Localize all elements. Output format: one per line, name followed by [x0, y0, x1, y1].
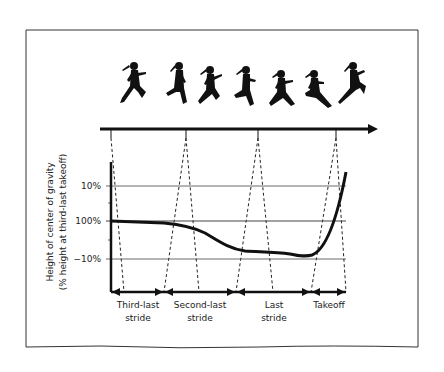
y-tick-label: 10%	[81, 181, 101, 191]
phase-label: stride	[187, 313, 213, 323]
phase-label: Third-last	[116, 300, 160, 310]
dashed-projection-lines	[111, 138, 346, 292]
y-axis-label: Height of center of gravity	[45, 162, 55, 282]
y-tick-label: 100%	[75, 216, 101, 226]
long-jump-approach-diagram: 10% 100% −10% Height of center of gravit…	[0, 0, 444, 372]
phase-label: stride	[261, 313, 287, 323]
phase-label: Takeoff	[312, 300, 345, 310]
runner-icon	[166, 62, 187, 104]
phase-label: Last	[265, 300, 284, 310]
y-axis-label-sub: (% height at third-last takeoff)	[58, 154, 68, 290]
runner-silhouettes	[120, 62, 366, 108]
runner-icon	[338, 62, 366, 104]
phase-label: stride	[125, 313, 151, 323]
y-tick-label: −10%	[73, 254, 101, 264]
runner-icon	[198, 66, 222, 104]
runner-icon	[234, 66, 256, 106]
runner-icon	[305, 70, 332, 108]
runner-icon	[120, 62, 146, 103]
phase-label: Second-last	[174, 300, 227, 310]
runner-icon	[269, 70, 295, 106]
arrow-right-icon	[368, 124, 378, 134]
cog-curve	[111, 172, 346, 256]
